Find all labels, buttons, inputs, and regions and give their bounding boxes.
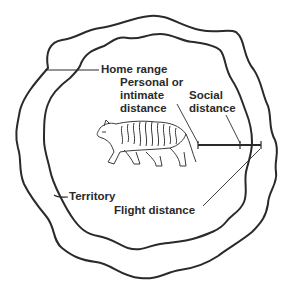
tiger-icon (97, 120, 196, 166)
personal-distance-label-line2: intimate (120, 89, 164, 102)
personal-distance-label-line3: distance (120, 102, 167, 115)
flight-distance-leader (203, 149, 260, 206)
social-distance-label-line2: distance (189, 102, 236, 115)
home-range-boundary (16, 16, 277, 279)
home-range-label: Home range (101, 63, 167, 76)
personal-distance-label-line1: Personal or (120, 76, 183, 89)
social-distance-label-line1: Social (189, 89, 223, 102)
territory-label: Territory (69, 190, 115, 203)
flight-distance-label: Flight distance (114, 204, 195, 217)
animal-space-diagram (0, 0, 287, 289)
social-distance-leader (226, 115, 240, 143)
